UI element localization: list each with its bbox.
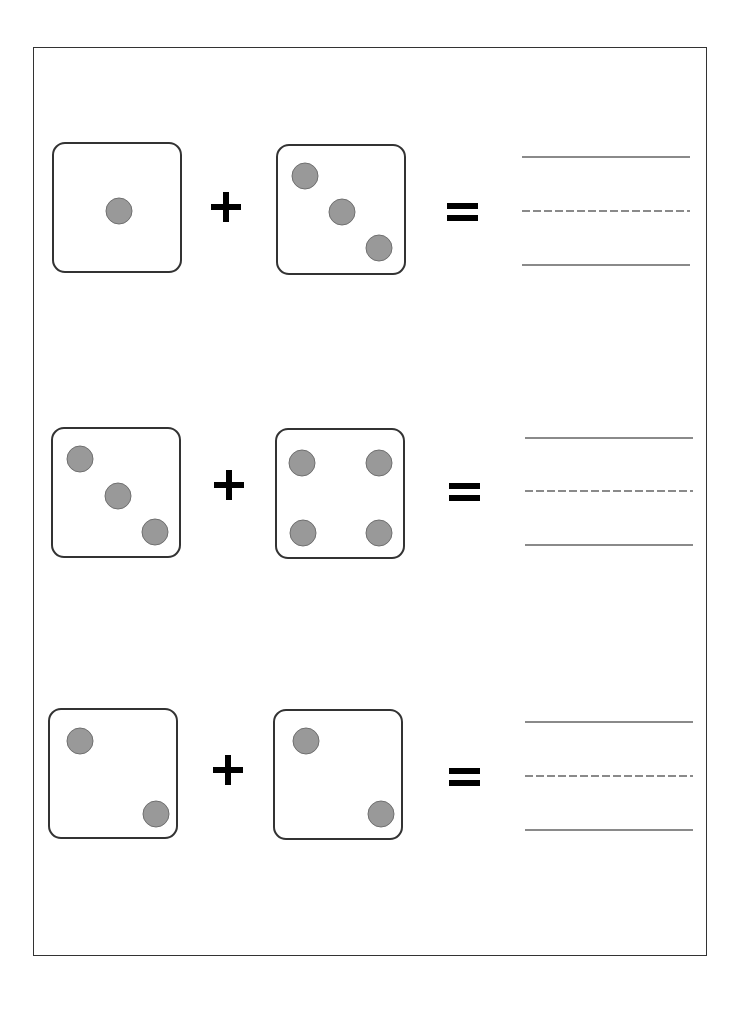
answer-line-midline[interactable] [525,775,693,777]
answer-line-midline[interactable] [522,210,690,212]
die-left: 3 [51,427,181,558]
die-pip [368,801,395,828]
equals-sign-icon [449,483,480,501]
answer-line-bottom[interactable] [525,544,693,546]
plus-sign-icon [211,192,241,222]
die-pip [106,198,133,225]
die-pip [366,450,393,477]
answer-line-top[interactable] [522,156,690,158]
answer-line-midline[interactable] [525,490,693,492]
answer-line-top[interactable] [525,721,693,723]
plus-sign-icon [213,755,243,785]
die-pip [143,801,170,828]
die-right: 4 [275,428,405,559]
answer-line-bottom[interactable] [522,264,690,266]
die-right: 3 [276,144,406,275]
die-pip [67,728,94,755]
die-pip [142,519,169,546]
die-left: 2 [48,708,178,839]
die-right: 2 [273,709,403,840]
die-pip [105,483,132,510]
die-left: 1 [52,142,182,273]
answer-line-bottom[interactable] [525,829,693,831]
die-pip [293,728,320,755]
die-pip [289,450,316,477]
die-pip [290,520,317,547]
plus-sign-icon [214,470,244,500]
die-pip [292,163,319,190]
die-pip [366,520,393,547]
die-pip [329,199,356,226]
die-pip [67,446,94,473]
answer-line-top[interactable] [525,437,693,439]
equals-sign-icon [449,768,480,786]
die-pip [366,235,393,262]
equals-sign-icon [447,203,478,221]
